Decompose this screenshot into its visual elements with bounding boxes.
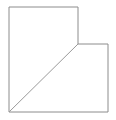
geometric-figure xyxy=(0,0,116,120)
